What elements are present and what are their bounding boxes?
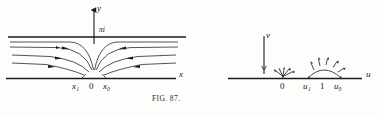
hump-arc-right — [308, 70, 341, 78]
left-x-axis-label: x — [179, 70, 183, 79]
figure-caption: FIG. 87. — [152, 94, 180, 103]
left-tick-label-zero: 0 — [89, 82, 94, 91]
streamline-4 — [12, 63, 84, 75]
left-y-axis-label: y — [97, 4, 101, 13]
baseline-ticks — [283, 76, 341, 78]
right-tick-label-zero: 0 — [280, 82, 285, 91]
right-tick-label-one: 1 — [320, 82, 325, 91]
left-tick-label-x0: x₀ — [103, 82, 110, 91]
right-diagram-group — [228, 36, 362, 79]
left-pi-i-label: πi — [99, 26, 105, 34]
right-tick-label-u0: u₀ — [334, 82, 342, 91]
left-tick-label-x1: x₁ — [72, 82, 79, 91]
right-u-axis-label: u — [366, 70, 371, 79]
figure-87-container: y πi x x₁ 0 x₀ v u 0 u₁ 1 u₀ FIG. 87. — [0, 0, 378, 116]
right-tick-label-u1: u₁ — [303, 82, 311, 91]
streamline-4-mirror — [104, 63, 176, 75]
right-v-axis-label: v — [266, 31, 270, 40]
figure-vector-canvas — [0, 0, 378, 116]
left-diagram-group — [6, 10, 186, 79]
flux-ray-arrowheads-unit — [310, 57, 346, 70]
